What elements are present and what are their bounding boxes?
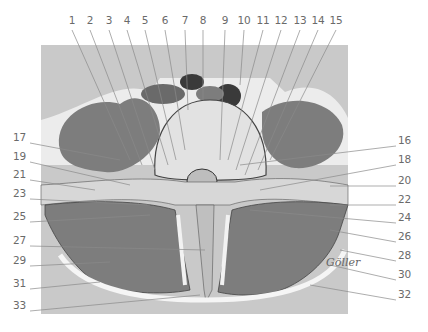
label-5: 5 [142,14,148,26]
label-19: 19 [2,150,26,162]
label-4: 4 [124,14,130,26]
artist-signature: Göller [326,256,361,269]
label-10: 10 [238,14,251,26]
label-1: 1 [69,14,75,26]
label-28: 28 [398,249,411,261]
label-2: 2 [87,14,93,26]
label-13: 13 [294,14,307,26]
label-11: 11 [257,14,270,26]
label-15: 15 [330,14,343,26]
cross-section-illustration: Göller [0,0,428,332]
label-20: 20 [398,174,411,186]
vessel-mid [180,74,204,90]
label-25: 25 [2,210,26,222]
label-24: 24 [398,211,411,223]
label-3: 3 [106,14,112,26]
vessel-left [141,84,185,104]
label-31: 31 [2,277,26,289]
label-30: 30 [398,268,411,280]
label-17: 17 [2,131,26,143]
label-23: 23 [2,187,26,199]
label-18: 18 [398,153,411,165]
label-32: 32 [398,288,411,300]
label-8: 8 [200,14,206,26]
label-29: 29 [2,254,26,266]
label-33: 33 [2,299,26,311]
label-7: 7 [182,14,188,26]
label-22: 22 [398,193,411,205]
label-16: 16 [398,134,411,146]
label-6: 6 [162,14,168,26]
label-26: 26 [398,230,411,242]
label-27: 27 [2,234,26,246]
label-9: 9 [222,14,228,26]
anatomy-figure: Göller 1 2 3 4 5 6 7 8 9 10 11 12 13 14 … [0,0,428,332]
label-14: 14 [312,14,325,26]
label-12: 12 [275,14,288,26]
label-21: 21 [2,168,26,180]
